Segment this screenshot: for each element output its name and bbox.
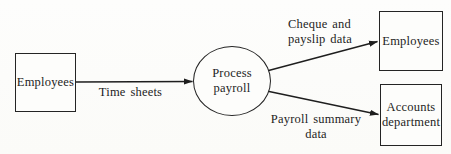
- edge-label-cheque-payslip-line2: payslip data: [288, 32, 352, 47]
- node-process-payroll-label-line2: payroll: [214, 81, 251, 96]
- edge-label-payroll-summary-line1: Payroll summary: [270, 112, 362, 127]
- node-accounts-department: Accounts department: [380, 84, 442, 146]
- node-employees-source-label: Employees: [17, 75, 74, 90]
- edge-label-cheque-payslip: Cheque and payslip data: [288, 17, 352, 47]
- edge-label-cheque-payslip-line1: Cheque and: [288, 17, 352, 32]
- arrow-payroll-summary: [262, 90, 379, 115]
- edge-label-payroll-summary-line2: data: [270, 127, 362, 142]
- node-accounts-department-label-line2: department: [382, 115, 440, 130]
- edge-label-time-sheets-text: Time sheets: [99, 85, 162, 99]
- node-employees-source: Employees: [15, 53, 76, 112]
- node-accounts-department-label-line1: Accounts: [387, 100, 436, 115]
- payroll-data-flow-diagram: Employees Process payroll Employees Acco…: [0, 0, 451, 154]
- node-employees-sink: Employees: [379, 11, 443, 71]
- node-employees-sink-label: Employees: [382, 34, 439, 49]
- node-process-payroll: Process payroll: [193, 46, 271, 116]
- arrow-time-sheets: [76, 82, 193, 83]
- edge-label-time-sheets: Time sheets: [88, 85, 173, 100]
- node-process-payroll-label-line1: Process: [212, 66, 252, 81]
- edge-label-payroll-summary: Payroll summary data: [270, 112, 362, 142]
